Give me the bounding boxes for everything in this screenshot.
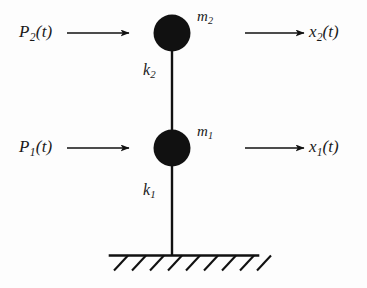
mass-subscript-lower: 1	[208, 130, 213, 141]
hatch-mark	[186, 256, 200, 271]
force-symbol-upper: P	[19, 22, 30, 41]
hatch-mark	[114, 256, 128, 271]
mass-1-node	[154, 130, 191, 167]
stiffness-label-lower: k1	[143, 182, 156, 198]
displacement-subscript-lower: 1	[317, 146, 323, 159]
mass-2-node	[154, 15, 191, 52]
force-label-upper: P2(t)	[19, 23, 52, 40]
force-symbol-lower: P	[19, 137, 30, 156]
hatch-mark	[257, 256, 271, 271]
mass-label-lower: m1	[197, 124, 213, 139]
stiffness-label-upper: k2	[143, 62, 156, 78]
force-argument-lower: (t)	[36, 137, 53, 156]
stiffness-subscript-upper: 2	[150, 68, 156, 80]
mass-symbol-lower: m	[197, 123, 208, 139]
force-subscript-lower: 1	[30, 146, 36, 159]
hatch-mark	[150, 256, 164, 271]
mass-symbol-upper: m	[197, 8, 208, 24]
hatch-mark	[240, 256, 254, 271]
mechanics-diagram: P2(t) P1(t) m2 m1 k2 k1 x2(t) x1(t)	[0, 0, 367, 288]
hatch-mark	[204, 256, 218, 271]
displacement-label-upper: x2(t)	[309, 23, 339, 40]
displacement-label-lower: x1(t)	[309, 138, 339, 155]
displacement-subscript-upper: 2	[317, 31, 323, 44]
force-label-lower: P1(t)	[19, 138, 52, 155]
displacement-symbol-upper: x	[309, 22, 317, 41]
hatch-mark	[168, 256, 182, 271]
ground-hatching	[114, 256, 271, 271]
hatch-mark	[132, 256, 146, 271]
mass-label-upper: m2	[197, 9, 213, 24]
hatch-mark	[222, 256, 236, 271]
displacement-symbol-lower: x	[309, 137, 317, 156]
stiffness-subscript-lower: 1	[150, 188, 156, 200]
displacement-argument-upper: (t)	[323, 22, 339, 41]
force-subscript-upper: 2	[30, 31, 36, 44]
force-argument-upper: (t)	[36, 22, 53, 41]
mass-subscript-upper: 2	[208, 15, 213, 26]
displacement-argument-lower: (t)	[323, 137, 339, 156]
